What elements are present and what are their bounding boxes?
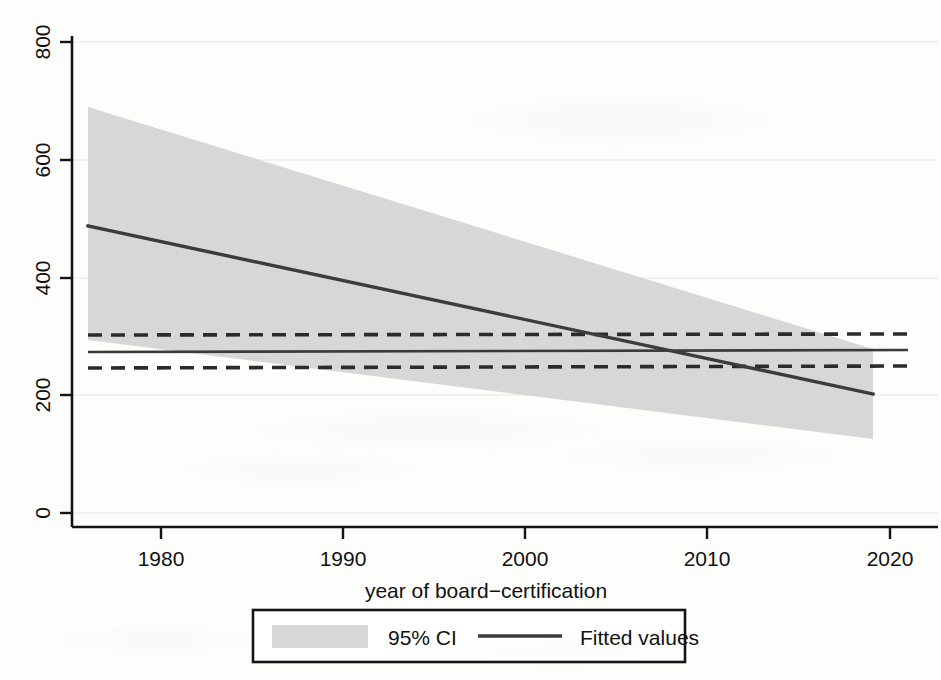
legend-label-ci: 95% CI: [388, 626, 457, 649]
x-tick-label-2020: 2020: [867, 547, 914, 570]
y-tick-label-400: 400: [31, 260, 54, 295]
x-tick-label-1980: 1980: [138, 547, 185, 570]
y-tick-label-200: 200: [31, 377, 54, 412]
chart-legend: 95% CI Fitted values: [253, 610, 699, 662]
y-tick-label-600: 600: [31, 142, 54, 177]
y-tick-label-800: 800: [31, 24, 54, 59]
x-axis-title: year of board−certification: [365, 579, 607, 602]
x-tick-label-2000: 2000: [502, 547, 549, 570]
figure-container: 800 600 400 200 0 1980 1990 2000 2010 20…: [0, 0, 941, 680]
y-tick-label-0: 0: [31, 507, 54, 519]
legend-swatch-ci: [272, 625, 368, 648]
x-tick-label-1990: 1990: [320, 547, 367, 570]
regression-plot: 800 600 400 200 0 1980 1990 2000 2010 20…: [0, 0, 941, 680]
legend-label-fitted: Fitted values: [580, 626, 699, 649]
x-tick-label-2010: 2010: [684, 547, 731, 570]
